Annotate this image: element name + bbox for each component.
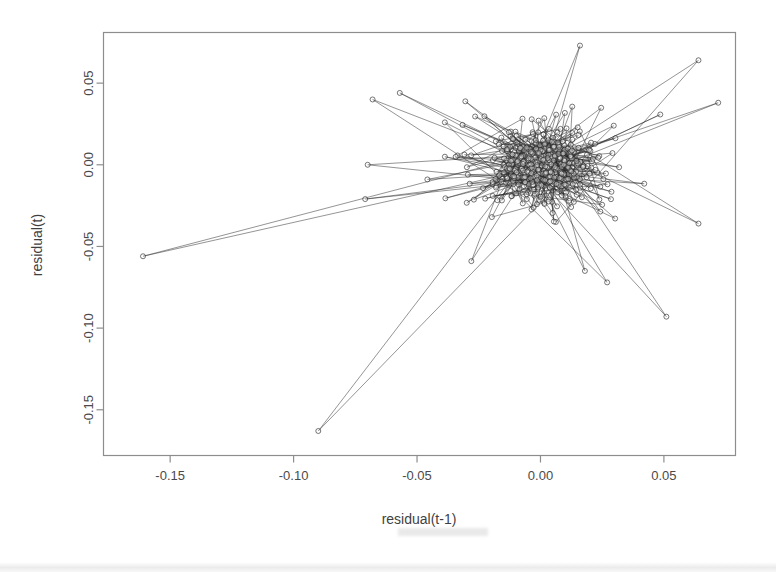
data-point-marker — [316, 429, 321, 434]
data-point-marker — [613, 216, 618, 221]
data-point-marker — [453, 154, 458, 159]
data-point-marker — [600, 202, 605, 207]
data-point-marker — [589, 165, 594, 170]
data-point-marker — [696, 58, 701, 63]
data-point-marker — [526, 156, 531, 161]
data-point-marker — [370, 97, 375, 102]
data-point-marker — [469, 259, 474, 264]
plot-canvas: -0.15-0.10-0.050.000.05 -0.15-0.10-0.050… — [0, 0, 776, 572]
data-point-marker — [516, 182, 521, 187]
data-point-marker — [536, 130, 541, 135]
data-point-marker — [365, 162, 370, 167]
data-point-marker — [542, 116, 547, 121]
data-point-marker — [528, 150, 533, 155]
data-point-marker — [537, 151, 542, 156]
data-point-marker — [534, 146, 539, 151]
data-point-marker — [571, 199, 576, 204]
data-point-marker — [490, 193, 495, 198]
data-point-marker — [570, 137, 575, 142]
data-point-marker — [442, 154, 447, 159]
data-point-marker — [559, 171, 564, 176]
data-point-marker — [425, 177, 430, 182]
data-point-marker — [499, 198, 504, 203]
data-point-marker — [609, 189, 614, 194]
data-point-marker — [575, 125, 580, 130]
data-point-marker — [482, 114, 487, 119]
data-point-marker — [529, 117, 534, 122]
data-point-marker — [496, 142, 501, 147]
data-point-marker — [598, 209, 603, 214]
data-point-marker — [533, 138, 538, 143]
data-point-marker — [552, 175, 557, 180]
data-point-marker — [489, 215, 494, 220]
data-point-marker — [608, 197, 613, 202]
data-point-marker — [535, 178, 540, 183]
data-point-marker — [576, 145, 581, 150]
data-point-marker — [529, 162, 534, 167]
data-point-marker — [613, 136, 618, 141]
data-point-marker — [617, 165, 622, 170]
data-point-marker — [569, 169, 574, 174]
data-point-marker — [510, 152, 515, 157]
data-point-marker — [465, 172, 470, 177]
y-tick-label: -0.10 — [81, 313, 96, 343]
data-point-marker — [514, 191, 519, 196]
data-point-marker — [481, 186, 486, 191]
data-point-marker — [555, 130, 560, 135]
data-point-marker — [570, 182, 575, 187]
data-point-marker — [588, 186, 593, 191]
x-tick-label: -0.10 — [279, 468, 309, 483]
y-tick-label: 0.00 — [81, 152, 96, 177]
data-point-marker — [514, 170, 519, 175]
data-point-marker — [548, 170, 553, 175]
data-point-marker — [605, 280, 610, 285]
data-point-marker — [499, 179, 504, 184]
x-axis-title: residual(t-1) — [382, 511, 457, 527]
data-point-marker — [543, 164, 548, 169]
data-point-marker — [550, 211, 555, 216]
data-point-marker — [363, 197, 368, 202]
lag-plot-figure: -0.15-0.10-0.050.000.05 -0.15-0.10-0.050… — [0, 0, 776, 572]
data-point-marker — [554, 112, 559, 117]
data-point-marker — [538, 194, 543, 199]
data-point-marker — [499, 135, 504, 140]
data-point-marker — [555, 140, 560, 145]
data-point-marker — [570, 104, 575, 109]
data-point-marker — [536, 118, 541, 123]
data-point-marker — [567, 161, 572, 166]
data-point-marker — [141, 254, 146, 259]
data-point-marker — [562, 182, 567, 187]
data-point-marker — [529, 171, 534, 176]
data-point-marker — [664, 314, 669, 319]
data-point-marker — [582, 268, 587, 273]
data-point-marker — [515, 159, 520, 164]
data-point-marker — [524, 197, 529, 202]
data-point-marker — [523, 175, 528, 180]
data-point-marker — [605, 182, 610, 187]
data-point-marker — [493, 177, 498, 182]
data-point-marker — [517, 187, 522, 192]
data-point-marker — [524, 192, 529, 197]
data-point-marker — [531, 205, 536, 210]
data-point-marker — [530, 131, 535, 136]
data-point-marker — [555, 190, 560, 195]
data-point-marker — [535, 163, 540, 168]
data-point-marker — [611, 123, 616, 128]
data-point-marker — [555, 204, 560, 209]
data-point-marker — [541, 132, 546, 137]
data-point-marker — [509, 194, 514, 199]
figure-background — [0, 0, 776, 572]
data-point-marker — [574, 158, 579, 163]
data-point-marker — [597, 197, 602, 202]
data-point-marker — [584, 175, 589, 180]
data-point-marker — [532, 191, 537, 196]
data-point-marker — [443, 196, 448, 201]
data-point-marker — [569, 148, 574, 153]
data-point-marker — [504, 147, 509, 152]
data-point-marker — [580, 164, 585, 169]
data-point-marker — [576, 133, 581, 138]
data-point-marker — [514, 133, 519, 138]
data-point-marker — [517, 146, 522, 151]
data-point-marker — [483, 196, 488, 201]
data-point-marker — [493, 185, 498, 190]
